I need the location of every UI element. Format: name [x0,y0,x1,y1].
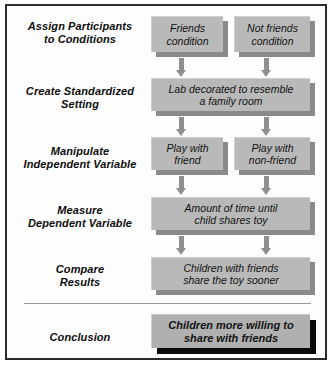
row-label-line2: Setting [14,98,146,111]
arrow-down-icon [261,117,272,136]
arrow-down-icon [176,236,187,255]
box-line2: share the toy sooner [183,274,279,287]
box-line2: share with friends [168,332,293,345]
arrow-down-icon [176,176,187,195]
row-label-manipulate-independent-variable: Manipulate Independent Variable [14,145,146,171]
box-play-with-friend: Play with friend [151,137,223,170]
box-not-friends-condition: Not friends condition [234,16,310,52]
arrow-down-icon [261,236,272,255]
row-label-line1: Manipulate [14,145,146,158]
flowchart-diagram: Assign Participants to Conditions Friend… [0,0,334,366]
row-label-line2: to Conditions [14,33,146,46]
row-label-line1: Conclusion [14,331,146,344]
box-play-with-non-friend: Play with non-friend [234,137,310,170]
box-line1: Not friends [247,22,298,35]
row-label-line1: Assign Participants [14,20,146,33]
row-label-line1: Measure [14,204,146,217]
row-label-create-standardized-setting: Create Standardized Setting [14,85,146,111]
box-line1: Play with [249,142,296,155]
row-label-line1: Compare [14,263,146,276]
box-line1: Play with [166,142,208,155]
diagram-canvas [7,6,325,358]
arrow-down-icon [261,58,272,77]
diagram-frame [5,4,327,360]
box-line1: Children more willing to [168,319,293,332]
section-divider [24,303,311,304]
row-label-compare-results: Compare Results [14,263,146,289]
row-label-measure-dependent-variable: Measure Dependent Variable [14,204,146,230]
box-line2: non-friend [249,154,296,167]
row-label-assign-participants: Assign Participants to Conditions [14,20,146,46]
row-label-line2: Results [14,276,146,289]
row-label-line2: Independent Variable [14,158,146,171]
row-label-conclusion: Conclusion [14,331,146,344]
box-line2: friend [166,154,208,167]
box-line1: Children with friends [183,262,279,275]
arrow-down-icon [261,176,272,195]
box-lab-decorated: Lab decorated to resemble a family room [151,78,310,111]
arrow-down-icon [176,117,187,136]
box-line1: Lab decorated to resemble [169,83,294,96]
box-line1: Amount of time until [185,202,278,215]
row-label-line1: Create Standardized [14,85,146,98]
box-line2: child shares toy [185,214,278,227]
box-line2: condition [166,35,208,48]
box-children-with-friends: Children with friends share the toy soon… [151,257,310,290]
box-line2: a family room [169,95,294,108]
box-line2: condition [247,35,298,48]
row-label-line2: Dependent Variable [14,217,146,230]
box-line1: Friends [166,22,208,35]
box-conclusion: Children more willing to share with frie… [151,314,310,348]
arrow-down-icon [176,58,187,77]
box-friends-condition: Friends condition [151,16,223,52]
box-amount-of-time: Amount of time until child shares toy [151,197,310,230]
